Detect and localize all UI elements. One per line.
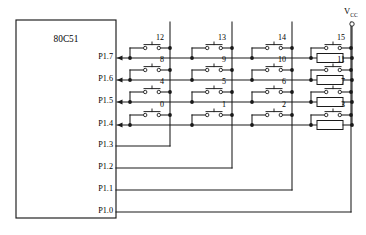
key-contact-left-12 [144, 46, 147, 49]
key-contact-left-11 [325, 68, 328, 71]
key-label-4: 4 [160, 77, 164, 86]
key-contact-right-6 [279, 90, 282, 93]
key-contact-left-15 [325, 46, 328, 49]
chip-label: 80C51 [54, 34, 79, 44]
key-contact-left-8 [144, 68, 147, 71]
key-label-13: 13 [218, 33, 226, 42]
vcc-terminal [350, 22, 354, 26]
key-contact-right-3 [338, 113, 341, 116]
key-label-10: 10 [278, 55, 286, 64]
pin-label-P1.6: P1.6 [98, 74, 113, 83]
key-contact-left-9 [206, 68, 209, 71]
key-label-7: 7 [341, 77, 345, 86]
key-contact-right-11 [338, 68, 341, 71]
key-contact-left-3 [325, 113, 328, 116]
pin-label-P1.0: P1.0 [98, 206, 113, 215]
key-contact-right-12 [157, 46, 160, 49]
key-label-15: 15 [337, 33, 345, 42]
key-contact-right-2 [279, 113, 282, 116]
key-contact-right-1 [219, 113, 222, 116]
key-label-0: 0 [160, 100, 164, 109]
key-contact-left-13 [206, 46, 209, 49]
key-contact-left-10 [266, 68, 269, 71]
key-contact-left-0 [144, 113, 147, 116]
pin-label-P1.2: P1.2 [98, 162, 113, 171]
key-contact-right-7 [338, 90, 341, 93]
key-contact-right-9 [219, 68, 222, 71]
key-contact-right-10 [279, 68, 282, 71]
key-label-14: 14 [278, 33, 286, 42]
pin-label-P1.1: P1.1 [98, 184, 113, 193]
key-label-8: 8 [160, 55, 164, 64]
key-contact-right-14 [279, 46, 282, 49]
key-contact-right-15 [338, 46, 341, 49]
key-label-9: 9 [222, 55, 226, 64]
vcc-label-subscript: CC [350, 12, 357, 18]
key-label-5: 5 [222, 77, 226, 86]
key-label-3: 3 [341, 100, 345, 109]
key-contact-left-1 [206, 113, 209, 116]
key-contact-left-2 [266, 113, 269, 116]
key-contact-left-5 [206, 90, 209, 93]
key-contact-left-14 [266, 46, 269, 49]
pullup-resistor-P1.6 [317, 76, 343, 85]
key-label-11: 11 [337, 55, 345, 64]
key-contact-right-13 [219, 46, 222, 49]
key-contact-left-7 [325, 90, 328, 93]
key-contact-left-4 [144, 90, 147, 93]
pin-label-P1.7: P1.7 [98, 52, 113, 61]
key-label-6: 6 [282, 77, 286, 86]
vcc-label: VCC [344, 6, 358, 18]
key-label-1: 1 [222, 100, 226, 109]
key-contact-right-0 [157, 113, 160, 116]
pin-label-P1.3: P1.3 [98, 140, 113, 149]
pullup-resistor-P1.5 [317, 98, 343, 107]
key-contact-left-6 [266, 90, 269, 93]
key-label-12: 12 [156, 33, 164, 42]
key-contact-right-8 [157, 68, 160, 71]
key-contact-right-5 [219, 90, 222, 93]
key-label-2: 2 [282, 100, 286, 109]
pullup-resistor-P1.4 [317, 121, 343, 130]
key-contact-right-4 [157, 90, 160, 93]
pin-label-P1.5: P1.5 [98, 96, 113, 105]
circuit-diagram: 80C51P1.7P1.6P1.5P1.4P1.3P1.2P1.1P1.0121… [0, 0, 366, 235]
pin-label-P1.4: P1.4 [98, 119, 113, 128]
